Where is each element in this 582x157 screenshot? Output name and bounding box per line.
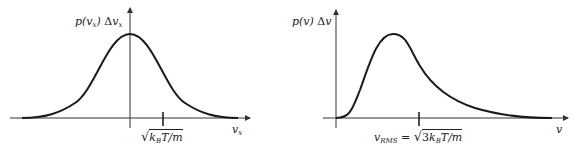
left-y-axis-label: p(vx) Δvx (75, 16, 122, 29)
right-plot (323, 10, 568, 128)
left-tick-label: √kBT/m (141, 130, 183, 145)
right-y-axis-label: p(v) Δv (292, 16, 332, 27)
left-plot (10, 8, 250, 128)
right-tick-label: vRMS = √3kBT/m (374, 130, 462, 145)
right-x-axis-label: v (556, 124, 562, 135)
speed-distribution-curve (336, 34, 552, 118)
left-x-axis-label: vx (232, 124, 242, 137)
